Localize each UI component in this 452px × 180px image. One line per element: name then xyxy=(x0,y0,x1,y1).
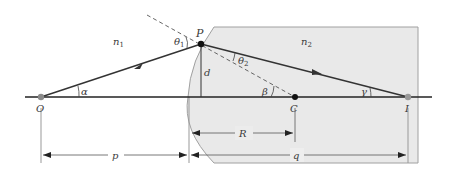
point-I xyxy=(405,94,411,100)
theta1-arc xyxy=(186,37,188,48)
medium-n2-region xyxy=(187,27,418,163)
incident-ray xyxy=(41,44,201,97)
label-q: q xyxy=(293,150,299,161)
label-beta: β xyxy=(261,86,268,97)
label-R: R xyxy=(238,128,247,139)
label-O: O xyxy=(36,103,44,114)
label-theta1: θ1 xyxy=(174,36,185,49)
point-C xyxy=(292,94,298,100)
label-p: p xyxy=(112,150,119,161)
label-C: C xyxy=(290,103,298,114)
label-gamma: γ xyxy=(361,86,367,97)
label-n1: n1 xyxy=(113,36,124,49)
label-P: P xyxy=(195,27,204,40)
alpha-arc xyxy=(78,86,79,97)
point-P xyxy=(198,41,204,47)
refraction-diagram: n1 n2 P O C I θ1 θ2 α β γ d R p q xyxy=(0,0,452,180)
label-alpha: α xyxy=(81,86,88,97)
label-d: d xyxy=(204,67,210,78)
point-O xyxy=(38,94,44,100)
